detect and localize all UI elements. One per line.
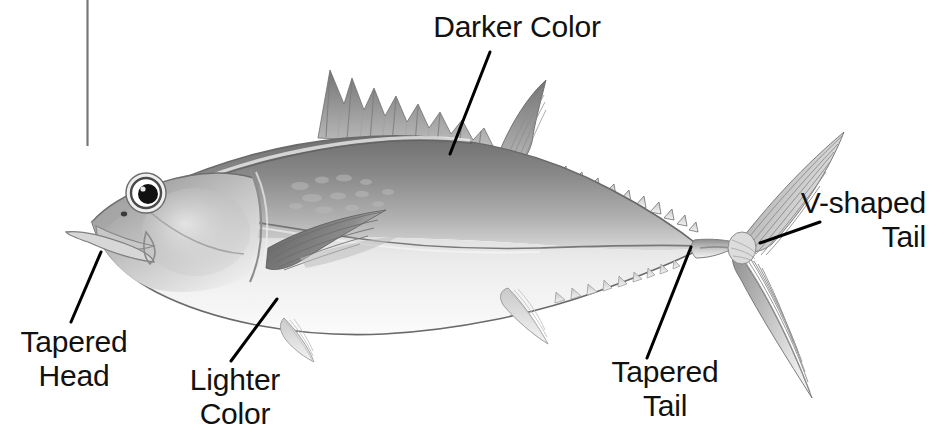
- nostril: [121, 212, 127, 217]
- label-tapered-tail: Tapered Tail: [570, 355, 760, 423]
- label-darker-color: Darker Color: [412, 10, 622, 44]
- leader-tapered-head: [71, 252, 101, 322]
- label-lighter-color: Lighter Color: [150, 363, 320, 431]
- figure-canvas: Darker Color V-shaped Tail Tapered Head …: [0, 0, 932, 448]
- label-tapered-head: Tapered Head: [0, 325, 148, 393]
- eye: [126, 173, 166, 213]
- tapered-head: [66, 170, 267, 292]
- label-v-shaped-tail: V-shaped Tail: [740, 186, 926, 254]
